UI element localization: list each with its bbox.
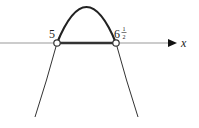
root-label-left: 5 xyxy=(49,27,55,41)
parabola-arch xyxy=(57,7,116,43)
root-label-right: 6 1 2 xyxy=(114,26,127,41)
parabola-left-branch xyxy=(35,43,57,117)
parabola-right-branch xyxy=(116,43,138,117)
x-axis-label: x xyxy=(180,36,187,50)
svg-text:1: 1 xyxy=(123,26,126,32)
svg-text:2: 2 xyxy=(123,34,126,40)
parabola-diagram: x 5 6 1 2 xyxy=(0,0,199,128)
svg-text:6: 6 xyxy=(114,27,120,41)
x-axis-arrow-icon xyxy=(168,39,177,47)
